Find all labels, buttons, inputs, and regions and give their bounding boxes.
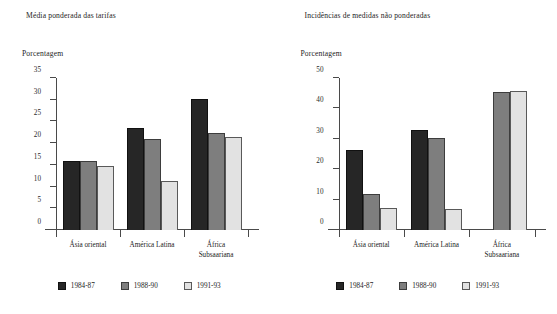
legend-item-1991-93: 1991-93: [462, 282, 499, 290]
legend-swatch-icon: [336, 282, 344, 290]
legend-label: 1991-93: [475, 282, 499, 290]
legend-label: 1984-87: [71, 282, 95, 290]
bar-1991-93-Ásia oriental: [380, 208, 397, 230]
bar-1984-87-América Latina: [127, 128, 144, 230]
legend-label: 1984-87: [349, 282, 373, 290]
legend: 1984-871988-901991-93: [279, 282, 557, 290]
bar-1988-90-África Subsaariana: [208, 133, 225, 230]
panel-title: Incidências de medidas não ponderadas: [305, 11, 431, 20]
x-axis-separator-tick: [339, 230, 340, 237]
category-label: ÁfricaSubsaariana: [469, 240, 534, 260]
legend-item-1984-87: 1984-87: [336, 282, 373, 290]
bar-1991-93-América Latina: [161, 181, 178, 231]
y-axis-tick-label: 25: [34, 109, 41, 117]
legend-swatch-icon: [184, 282, 192, 290]
category-labels: Ásia orientalAmérica LatinaÁfricaSubsaar…: [339, 240, 535, 260]
legend-item-1984-87: 1984-87: [58, 282, 95, 290]
y-axis-tick-label: 15: [34, 153, 41, 161]
x-axis-separator-tick: [120, 230, 121, 237]
y-axis-tick-label: 30: [316, 127, 323, 135]
category-label: ÁfricaSubsaariana: [184, 240, 248, 260]
category-labels: Ásia orientalAmérica LatinaÁfricaSubsaar…: [56, 240, 248, 260]
legend-swatch-icon: [121, 282, 129, 290]
legend-label: 1988-90: [412, 282, 436, 290]
bar-1984-87-Ásia oriental: [346, 150, 363, 230]
legend-item-1991-93: 1991-93: [184, 282, 221, 290]
bar-1991-93-África Subsaariana: [510, 91, 527, 230]
bar-1991-93-América Latina: [445, 209, 462, 230]
bar-groups: [339, 78, 535, 230]
bar-1984-87-África Subsaariana: [191, 99, 208, 230]
x-axis-separator-tick: [535, 230, 536, 237]
legend-label: 1991-93: [197, 282, 221, 290]
category-label: América Latina: [404, 240, 469, 260]
y-axis-unit-label: Porcentagem: [22, 49, 63, 58]
legend-swatch-icon: [58, 282, 66, 290]
plot-area: 01020304050 Ásia orientalAmérica LatinaÁ…: [339, 78, 535, 230]
x-axis-separator-tick: [56, 230, 57, 237]
bar-group-bars: [184, 78, 248, 230]
x-axis-separator-tick: [248, 230, 249, 237]
bar-group-bars: [469, 78, 534, 230]
legend-item-1988-90: 1988-90: [121, 282, 158, 290]
bar-group-bars: [339, 78, 404, 230]
bar-1988-90-África Subsaariana: [493, 92, 510, 230]
bar-1991-93-Ásia oriental: [97, 166, 114, 230]
bar-group: [184, 78, 248, 230]
bar-group: [339, 78, 404, 230]
bar-1984-87-América Latina: [411, 130, 428, 230]
panel-title: Média ponderada das tarifas: [26, 11, 116, 20]
bar-1988-90-Ásia oriental: [80, 161, 97, 230]
plot-area: 05101520253035 Ásia orientalAmérica Lati…: [56, 78, 248, 230]
category-label: Ásia oriental: [56, 240, 120, 260]
legend-swatch-icon: [462, 282, 470, 290]
legend-swatch-icon: [399, 282, 407, 290]
bar-groups: [56, 78, 248, 230]
y-axis-tick-label: 10: [34, 175, 41, 183]
legend-item-1988-90: 1988-90: [399, 282, 436, 290]
x-axis-separator-tick: [404, 230, 405, 237]
bar-1988-90-Ásia oriental: [363, 194, 380, 230]
bar-group-bars: [120, 78, 184, 230]
bar-group-bars: [404, 78, 469, 230]
category-label: América Latina: [120, 240, 184, 260]
y-axis-tick-label: 0: [320, 218, 324, 226]
bar-1988-90-América Latina: [428, 138, 445, 230]
bar-1984-87-Ásia oriental: [63, 161, 80, 230]
bar-1988-90-América Latina: [144, 139, 161, 230]
x-axis-separator-tick: [184, 230, 185, 237]
bar-group: [404, 78, 469, 230]
legend: 1984-871988-901991-93: [0, 282, 279, 290]
y-axis-tick-label: 30: [34, 88, 41, 96]
y-axis-tick-label: 20: [34, 131, 41, 139]
y-axis-tick-label: 0: [37, 218, 41, 226]
two-panel-bar-chart-figure: Média ponderada das tarifas Porcentagem …: [0, 0, 557, 314]
panel-media-ponderada-das-tarifas: Média ponderada das tarifas Porcentagem …: [0, 0, 279, 314]
y-axis-tick-label: 35: [34, 66, 41, 74]
bar-1991-93-África Subsaariana: [225, 137, 242, 230]
x-axis-separator-tick: [469, 230, 470, 237]
y-axis-tick-label: 10: [316, 188, 323, 196]
bar-group: [56, 78, 120, 230]
y-axis-tick-label: 40: [316, 96, 323, 104]
y-axis-tick-label: 20: [316, 157, 323, 165]
bar-group-bars: [56, 78, 120, 230]
category-label: Ásia oriental: [339, 240, 404, 260]
bar-group: [120, 78, 184, 230]
bar-group: [469, 78, 534, 230]
legend-label: 1988-90: [134, 282, 158, 290]
panel-incidencias-de-medidas-nao-ponderadas: Incidências de medidas não ponderadas Po…: [279, 0, 557, 314]
y-axis-unit-label: Porcentagem: [301, 49, 342, 58]
y-axis-tick-label: 50: [316, 66, 323, 74]
y-axis-tick-label: 5: [37, 196, 41, 204]
